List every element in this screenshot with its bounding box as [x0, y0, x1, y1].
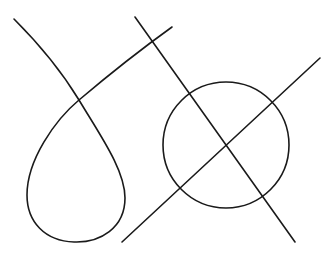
- diagram-svg: [0, 0, 333, 259]
- line-ascending: [122, 58, 320, 242]
- loop-curve: [14, 19, 172, 242]
- diagram-canvas: [0, 0, 333, 259]
